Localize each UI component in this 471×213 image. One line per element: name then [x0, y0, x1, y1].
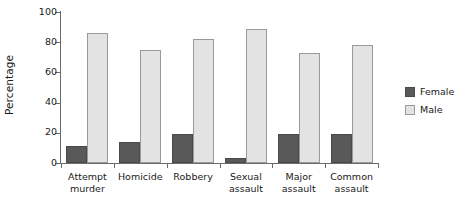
legend-swatch-female-icon — [405, 87, 415, 97]
category-label-line1: Common — [330, 171, 373, 182]
category-label-line1: Robbery — [173, 171, 212, 182]
bar-male — [246, 29, 267, 163]
category-label-line2: murder — [53, 183, 122, 195]
y-tick-label: 60 — [45, 66, 57, 77]
legend-item-male: Male — [405, 102, 454, 117]
x-tick-mark — [378, 164, 379, 168]
x-tick-mark — [167, 164, 168, 168]
bar-female — [119, 142, 140, 163]
bar-female — [225, 158, 246, 163]
y-tick-label: 20 — [45, 126, 57, 137]
x-tick-mark — [325, 164, 326, 168]
y-tick-label: 40 — [45, 96, 57, 107]
legend-item-female: Female — [405, 84, 454, 99]
y-tick-label: 0 — [51, 157, 57, 168]
x-tick-mark — [61, 164, 62, 168]
y-tick-label: 80 — [45, 36, 57, 47]
bar-chart: Percentage 020406080100 AttemptmurderHom… — [0, 0, 471, 213]
y-axis-title-label: Percentage — [3, 55, 15, 115]
bar-female — [66, 146, 87, 163]
legend-swatch-male-icon — [405, 105, 415, 115]
bar-male — [193, 39, 214, 163]
x-tick-mark — [220, 164, 221, 168]
category-label-line1: Major — [286, 171, 312, 182]
legend: Female Male — [405, 84, 454, 120]
legend-label-male: Male — [420, 104, 443, 115]
bar-male — [140, 50, 161, 163]
category-label-line1: Homicide — [118, 171, 163, 182]
bar-female — [278, 134, 299, 163]
bar-male — [87, 33, 108, 163]
y-tick-label: 100 — [39, 6, 57, 17]
bar-male — [299, 53, 320, 163]
x-tick-mark — [114, 164, 115, 168]
category-label-line2: assault — [317, 183, 386, 195]
y-axis-title: Percentage — [0, 0, 18, 170]
legend-label-female: Female — [420, 86, 454, 97]
bar-female — [172, 134, 193, 163]
plot-area — [61, 12, 378, 163]
bar-female — [331, 134, 352, 163]
category-label-line1: Sexual — [230, 171, 262, 182]
x-tick-mark — [272, 164, 273, 168]
category-label-line1: Attempt — [68, 171, 107, 182]
x-axis-category-label: Commonassault — [317, 171, 386, 194]
bar-male — [352, 45, 373, 163]
